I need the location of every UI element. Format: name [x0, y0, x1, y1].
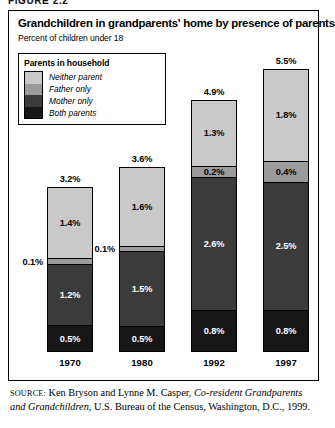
source-text-2: , U.S. Bureau of the Census, Washington,… — [89, 401, 310, 412]
bar-group-1980[interactable]: 3.6%1.6%0.1%1.5%0.5%1980 — [119, 167, 165, 352]
bar-segment[interactable]: 0.5% — [48, 325, 92, 351]
bar-segment[interactable]: 0.8% — [264, 310, 308, 351]
bar-segment[interactable]: 1.3% — [192, 101, 236, 167]
bar-total-label: 3.2% — [47, 174, 93, 184]
bar-segment-label: 0.8% — [204, 326, 225, 336]
bar-segment-label: 1.5% — [132, 284, 153, 294]
bar-segment-label: 0.5% — [132, 334, 153, 344]
bar-group-1992[interactable]: 4.9%1.3%0.2%2.6%0.8%1992 — [191, 100, 237, 352]
x-axis-label-1992: 1992 — [191, 357, 237, 368]
bar-segment[interactable]: 0.5% — [120, 326, 164, 351]
chart-panel: Grandchildren in grandparents' home by p… — [8, 10, 319, 381]
bar-segment[interactable]: 1.5% — [120, 251, 164, 325]
chart-plot-area: 3.2%1.4%0.1%1.2%0.5%19703.6%1.6%0.1%1.5%… — [9, 11, 318, 380]
bar-segment-label: 1.6% — [132, 202, 153, 212]
bar-segment-label: 2.5% — [276, 241, 297, 251]
bar-segment-label: 1.2% — [60, 290, 81, 300]
bar-segment[interactable]: 0.4% — [264, 161, 308, 182]
bar-total-label: 3.6% — [119, 154, 165, 164]
bar-segment-label: 0.5% — [60, 334, 81, 344]
bar-total-label: 4.9% — [191, 87, 237, 97]
bar-segment-label: 0.4% — [276, 167, 297, 177]
bar-segment-label: 0.8% — [276, 326, 297, 336]
bar-stack: 1.3%0.2%2.6%0.8% — [191, 100, 237, 352]
source-text-1: Ken Bryson and Lynne M. Casper, — [46, 387, 194, 398]
bar-segment[interactable]: 0.8% — [192, 310, 236, 351]
bar-segment[interactable]: 2.5% — [264, 182, 308, 309]
bar-segment-label: 1.3% — [204, 128, 225, 138]
bar-segment[interactable]: 1.2% — [48, 264, 92, 325]
bar-segment[interactable]: 0.2% — [192, 166, 236, 177]
bar-segment-label: 2.6% — [204, 239, 225, 249]
bar-segment-label: 0.1% — [94, 244, 115, 254]
x-axis-label-1970: 1970 — [47, 357, 93, 368]
x-axis-label-1997: 1997 — [263, 357, 309, 368]
bar-segment[interactable]: 1.8% — [264, 70, 308, 161]
x-axis-label-1980: 1980 — [119, 357, 165, 368]
bar-segment[interactable]: 1.6% — [120, 168, 164, 246]
bar-segment-label: 1.8% — [276, 110, 297, 120]
source-label: SOURCE: — [10, 389, 46, 398]
bar-segment-label: 1.4% — [60, 218, 81, 228]
figure-caption: FIGURE 2.2 — [8, 0, 68, 6]
bar-stack: 1.8%0.4%2.5%0.8% — [263, 69, 309, 352]
source-note: SOURCE: Ken Bryson and Lynne M. Casper, … — [10, 386, 315, 413]
bar-stack: 1.4%0.1%1.2%0.5% — [47, 187, 93, 352]
bar-total-label: 5.5% — [263, 56, 309, 66]
bar-segment[interactable]: 2.6% — [192, 177, 236, 309]
bar-group-1997[interactable]: 5.5%1.8%0.4%2.5%0.8%1997 — [263, 69, 309, 352]
bar-segment-label: 0.2% — [204, 167, 225, 177]
bar-segment[interactable]: 1.4% — [48, 188, 92, 258]
bar-stack: 1.6%0.1%1.5%0.5% — [119, 167, 165, 352]
bar-segment-label: 0.1% — [22, 257, 43, 267]
bar-group-1970[interactable]: 3.2%1.4%0.1%1.2%0.5%1970 — [47, 187, 93, 352]
